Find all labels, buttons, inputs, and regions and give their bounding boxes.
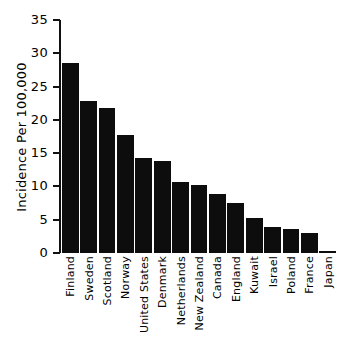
x-axis-label-text: Canada bbox=[212, 256, 223, 299]
bar-slot bbox=[172, 20, 189, 253]
x-axis-label-text: Netherlands bbox=[175, 256, 186, 325]
bar-slot bbox=[117, 20, 134, 253]
bar-slot bbox=[246, 20, 263, 253]
x-axis-label-slot: Sweden bbox=[79, 254, 97, 349]
y-axis-tick-label: 35 bbox=[0, 13, 48, 26]
x-axis-label-slot: New Zealand bbox=[190, 254, 208, 349]
y-axis-tick bbox=[53, 152, 60, 154]
y-axis-tick bbox=[53, 119, 60, 121]
y-axis-tick bbox=[53, 185, 60, 187]
x-axis-label-slot: Netherlands bbox=[171, 254, 189, 349]
x-axis-label-slot: Poland bbox=[282, 254, 300, 349]
y-axis-tick-label: 20 bbox=[0, 113, 48, 126]
bar bbox=[135, 158, 152, 253]
bar bbox=[283, 229, 300, 253]
bar-slot bbox=[191, 20, 208, 253]
bar bbox=[227, 203, 244, 253]
plot-area bbox=[61, 20, 337, 253]
bar-slot bbox=[80, 20, 97, 253]
bar-chart: Incidence Per 100,000 35302520151050 Fin… bbox=[0, 0, 338, 349]
x-axis-label-slot: Scotland bbox=[98, 254, 116, 349]
x-axis-label-slot: England bbox=[227, 254, 245, 349]
y-axis-tick bbox=[53, 219, 60, 221]
bar bbox=[301, 233, 318, 253]
y-axis-tick-label: 25 bbox=[0, 80, 48, 93]
x-axis-label-text: Sweden bbox=[83, 256, 94, 301]
bar bbox=[191, 185, 208, 253]
x-axis-label-text: Denmark bbox=[157, 256, 168, 308]
x-axis-label-slot: Israel bbox=[263, 254, 281, 349]
bar-slot bbox=[99, 20, 116, 253]
x-axis-label-text: England bbox=[230, 256, 241, 302]
bar bbox=[62, 63, 79, 253]
bar bbox=[172, 182, 189, 253]
bar-slot bbox=[135, 20, 152, 253]
x-axis-label-text: Norway bbox=[120, 256, 131, 299]
bar-slot bbox=[209, 20, 226, 253]
bar-slot bbox=[283, 20, 300, 253]
bar bbox=[117, 135, 134, 253]
y-axis-tick bbox=[53, 252, 60, 254]
bar-slot bbox=[154, 20, 171, 253]
bar-slot bbox=[227, 20, 244, 253]
bar bbox=[99, 108, 116, 253]
x-axis-label-slot: Denmark bbox=[153, 254, 171, 349]
x-axis-label-slot: United States bbox=[135, 254, 153, 349]
y-axis-tick bbox=[53, 86, 60, 88]
y-axis-tick-label: 30 bbox=[0, 46, 48, 59]
x-axis-label-text: Israel bbox=[267, 256, 278, 287]
bar bbox=[319, 251, 336, 253]
x-axis-labels: FinlandSwedenScotlandNorwayUnited States… bbox=[61, 254, 337, 349]
x-axis-label-text: Finland bbox=[65, 256, 76, 297]
x-axis-label-text: France bbox=[304, 256, 315, 294]
bar-slot bbox=[319, 20, 336, 253]
x-axis-label-slot: France bbox=[300, 254, 318, 349]
bar-slot bbox=[62, 20, 79, 253]
x-axis-label-slot: Finland bbox=[61, 254, 79, 349]
bar bbox=[154, 161, 171, 253]
y-axis-tick-label: 15 bbox=[0, 146, 48, 159]
y-axis-tick bbox=[53, 52, 60, 54]
y-axis-tick-label: 10 bbox=[0, 179, 48, 192]
bar bbox=[80, 101, 97, 253]
bar bbox=[209, 194, 226, 253]
x-axis-label-text: United States bbox=[138, 256, 149, 333]
bar bbox=[246, 218, 263, 253]
x-axis-label-text: Kuwait bbox=[249, 256, 260, 294]
bar-slot bbox=[264, 20, 281, 253]
x-axis-label-slot: Kuwait bbox=[245, 254, 263, 349]
x-axis-label-text: Poland bbox=[285, 256, 296, 294]
bar-slot bbox=[301, 20, 318, 253]
x-axis-label-text: Scotland bbox=[101, 256, 112, 305]
y-axis-tick bbox=[53, 19, 60, 21]
y-axis-tick-label: 0 bbox=[0, 246, 48, 259]
x-axis-label-slot: Canada bbox=[208, 254, 226, 349]
x-axis-label-slot: Norway bbox=[116, 254, 134, 349]
y-axis-tick-label: 5 bbox=[0, 213, 48, 226]
x-axis-label-text: Japan bbox=[322, 256, 333, 288]
x-axis-label-text: New Zealand bbox=[193, 256, 204, 330]
bar bbox=[264, 227, 281, 253]
x-axis-label-slot: Japan bbox=[319, 254, 337, 349]
